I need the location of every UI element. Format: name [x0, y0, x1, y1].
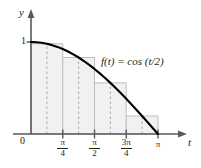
y-axis-label: y	[19, 7, 24, 18]
fraction-numerator: π	[49, 138, 77, 147]
fraction-denominator: 4	[49, 149, 77, 158]
x-axis-arrowhead	[178, 131, 187, 138]
fraction-denominator: 2	[81, 149, 109, 158]
x-tick-label-three-pi-over-4: 3π4	[112, 138, 140, 158]
x-tick-label-pi-over-2: π2	[81, 138, 109, 158]
x-tick-label-pi: π	[144, 140, 172, 149]
fraction-numerator: 3π	[112, 138, 140, 147]
x-axis-label: t	[188, 137, 191, 148]
y-axis-arrowhead	[28, 9, 35, 18]
origin-label: 0	[20, 136, 25, 146]
x-tick-label-pi-over-4: π4	[49, 138, 77, 158]
tick-text: π	[144, 140, 172, 149]
fraction-numerator: π	[81, 138, 109, 147]
y-tick-label-one: 1	[21, 36, 26, 46]
fraction-denominator: 4	[112, 149, 140, 158]
function-label: f(t) = cos (t/2)	[101, 56, 164, 67]
figure-canvas: y t 0 1 f(t) = cos (t/2) π4π23π4π	[0, 0, 201, 168]
